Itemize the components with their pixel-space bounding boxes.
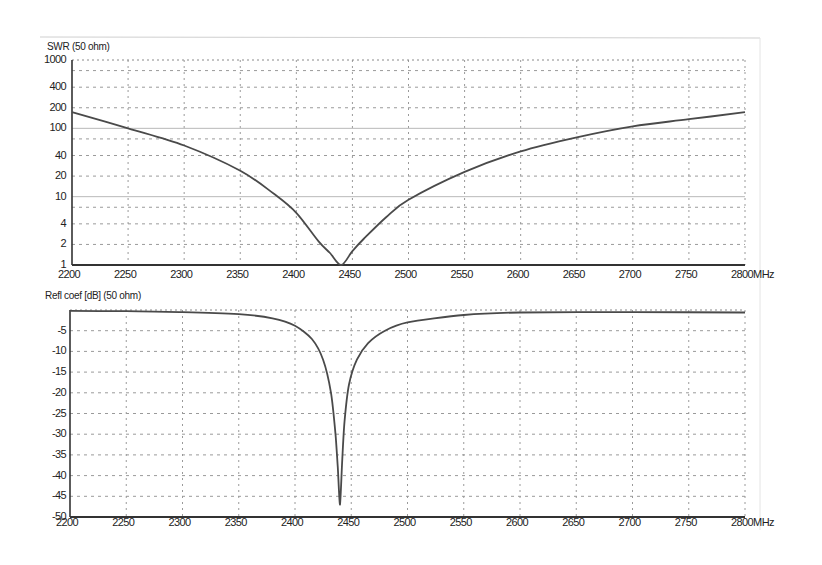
x-tick-label: 2300 [169,516,191,528]
x-tick-label: 2650 [563,268,585,280]
x-tick-label: 2550 [450,516,472,528]
x-tick-label: 2500 [395,268,417,280]
refl-chart-title: Refl coef [dB] (50 ohm) [45,290,141,301]
x-tick-label: 2700 [619,268,641,280]
top-frame-line [40,37,760,38]
y-tick-label: -20 [36,386,66,398]
x-tick-label: 2200 [58,268,80,280]
y-tick-label: 1000 [36,53,66,65]
swr-plot [72,60,745,265]
refl-coef-plot [70,310,745,517]
y-tick-label: 20 [36,169,66,181]
x-tick-label: 2650 [562,516,584,528]
y-tick-label: -35 [36,448,66,460]
y-tick-label: -25 [36,407,66,419]
y-tick-label: 10 [36,190,66,202]
y-tick-label: 40 [36,149,66,161]
x-tick-label: 2700 [619,516,641,528]
x-tick-label: 2200 [56,516,78,528]
x-tick-label: 2750 [675,268,697,280]
y-tick-label: 2 [36,237,66,249]
x-tick-label: 2350 [226,268,248,280]
x-tick-label: 2550 [451,268,473,280]
x-tick-label: 2250 [114,268,136,280]
y-tick-label: 200 [36,101,66,113]
y-tick-label: 4 [36,217,66,229]
x-tick-label: 2600 [507,268,529,280]
y-tick-label: -45 [36,489,66,501]
x-tick-label: 2800MHz [731,268,774,280]
x-tick-label: 2450 [338,268,360,280]
y-tick-label: -5 [36,324,66,336]
x-tick-label: 2350 [225,516,247,528]
x-tick-label: 2400 [281,516,303,528]
y-tick-label: -15 [36,365,66,377]
x-tick-label: 2750 [675,516,697,528]
x-tick-label: 2500 [394,516,416,528]
x-tick-label: 2450 [337,516,359,528]
x-tick-label: 2400 [282,268,304,280]
y-tick-label: -40 [36,469,66,481]
y-tick-label: -30 [36,427,66,439]
y-tick-label: 400 [36,80,66,92]
swr-chart-title: SWR (50 ohm) [47,41,110,52]
x-tick-label: 2800MHz [731,516,774,528]
x-tick-label: 2300 [170,268,192,280]
y-tick-label: -10 [36,344,66,356]
swr-curve [72,112,745,265]
y-tick-label: 100 [36,121,66,133]
x-tick-label: 2600 [506,516,528,528]
chart-canvas [0,0,822,565]
x-tick-label: 2250 [112,516,134,528]
